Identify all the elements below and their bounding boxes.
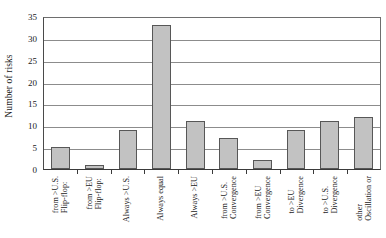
- x-tick: [111, 170, 112, 174]
- y-tick-label: 30: [28, 34, 37, 43]
- y-tick-label: 20: [28, 78, 37, 87]
- x-tick-label-slot: Always >EU: [178, 176, 212, 238]
- x-tick-label: Flip-flop:from >U.S.: [50, 176, 69, 213]
- y-tick-label: 25: [28, 56, 37, 65]
- x-tick-label-slot: Divergenceto >U.S.: [313, 176, 347, 238]
- x-tick-label-line: from >EU: [253, 186, 262, 220]
- bar-slot: [78, 18, 112, 169]
- x-tick-label-line: other: [355, 204, 364, 221]
- bar-slot: [246, 18, 280, 169]
- bar: [253, 160, 272, 169]
- x-tick-label-line: Always equal: [157, 176, 166, 221]
- y-axis-tick-labels: 05101520253035: [18, 10, 40, 178]
- bar-slot: [111, 18, 145, 169]
- x-tick-label: Always >U.S.: [123, 176, 132, 222]
- y-tick-label: 5: [33, 144, 38, 153]
- x-tick-label-slot: Convergencefrom >EU: [246, 176, 280, 238]
- x-tick-label: Always >EU: [190, 176, 199, 219]
- bar: [320, 121, 339, 169]
- x-tick-label: Oscillation orother: [355, 176, 374, 221]
- x-tick-label-slot: Oscillation orother: [347, 176, 381, 238]
- x-tick-label: Always equal: [157, 176, 166, 221]
- bar: [51, 147, 70, 169]
- y-tick-label: 35: [28, 13, 37, 22]
- bar-slot: [44, 18, 78, 169]
- bar-chart: Number of risks 05101520253035 Flip-flop…: [0, 0, 386, 238]
- x-tick-label-line: Always >U.S.: [123, 176, 132, 222]
- y-tick-label: 15: [28, 100, 37, 109]
- x-tick-label-line: Divergence: [296, 176, 305, 214]
- x-tick-label-line: Flip-flop:: [94, 178, 103, 209]
- y-tick-label: 0: [33, 166, 38, 175]
- x-axis-ticks: [43, 170, 381, 175]
- bar: [354, 117, 373, 169]
- x-tick-label: Divergenceto >EU: [287, 176, 306, 214]
- bar: [186, 121, 205, 169]
- x-tick: [212, 170, 213, 174]
- x-tick-label-line: Convergence: [263, 176, 272, 219]
- bar: [152, 25, 171, 169]
- x-tick-label-line: from >U.S.: [50, 176, 59, 213]
- bars-layer: [44, 18, 380, 169]
- x-tick-label-line: Divergence: [330, 176, 339, 214]
- x-tick: [280, 170, 281, 174]
- x-tick-label-line: to >U.S.: [321, 186, 330, 214]
- bar-slot: [313, 18, 347, 169]
- bar-slot: [279, 18, 313, 169]
- x-tick-label: Flip-flop:from >EU: [84, 176, 103, 210]
- bar: [85, 165, 104, 169]
- x-tick-label-line: from >EU: [84, 176, 93, 210]
- x-tick-label: Divergenceto >U.S.: [321, 176, 340, 214]
- bar-slot: [346, 18, 380, 169]
- plot-area: [43, 17, 381, 170]
- bar: [287, 130, 306, 169]
- x-tick: [178, 170, 179, 174]
- x-tick-label-line: from >U.S.: [219, 182, 228, 219]
- bar: [219, 138, 238, 169]
- x-tick-label-line: Oscillation or: [364, 176, 373, 221]
- y-axis-title-text: Number of risks: [4, 54, 14, 117]
- x-tick-label-line: Flip-flop:: [60, 182, 69, 213]
- y-axis-title: Number of risks: [0, 0, 18, 172]
- x-tick: [77, 170, 78, 174]
- x-tick-label-slot: Flip-flop:from >U.S.: [43, 176, 77, 238]
- x-tick-label-slot: Convergencefrom >U.S.: [212, 176, 246, 238]
- x-tick-label-slot: Always equal: [144, 176, 178, 238]
- x-tick-label-slot: Always >U.S.: [111, 176, 145, 238]
- x-tick-label-line: Always >EU: [190, 176, 199, 219]
- x-tick-label-slot: Divergenceto >EU: [280, 176, 314, 238]
- x-axis-tick-labels: Flip-flop:from >U.S.Flip-flop:from >EUAl…: [43, 176, 381, 238]
- x-tick-label: Convergencefrom >U.S.: [219, 176, 238, 219]
- x-tick: [313, 170, 314, 174]
- bar-slot: [145, 18, 179, 169]
- x-tick-label: Convergencefrom >EU: [253, 176, 272, 219]
- bar-slot: [212, 18, 246, 169]
- x-tick: [246, 170, 247, 174]
- x-tick-label-slot: Flip-flop:from >EU: [77, 176, 111, 238]
- x-tick: [144, 170, 145, 174]
- bar-slot: [178, 18, 212, 169]
- x-tick-label-line: Convergence: [229, 176, 238, 219]
- x-tick: [347, 170, 348, 174]
- bar: [119, 130, 138, 169]
- y-tick-label: 10: [28, 122, 37, 131]
